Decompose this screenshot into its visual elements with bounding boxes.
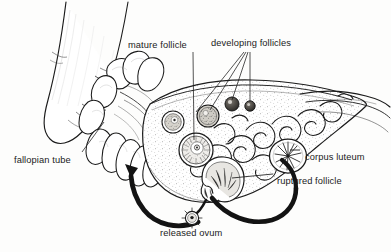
label-released-ovum: released ovum — [160, 228, 222, 238]
label-corpus-luteum: corpus luteum — [305, 152, 365, 162]
ovary — [140, 78, 370, 208]
label-mature-follicle: mature follicle — [128, 40, 187, 50]
illustration-canvas: mature follicle developing follicles fal… — [0, 0, 391, 252]
ovary-diagram-artwork — [0, 0, 391, 252]
label-developing-follicles: developing follicles — [211, 38, 291, 48]
label-ruptured-follicle: ruptured follicle — [277, 176, 342, 186]
developing-follicle-2 — [245, 101, 255, 111]
developing-follicle-3 — [197, 105, 219, 127]
ruptured-follicle-body — [201, 157, 244, 202]
intermediate-follicle — [162, 111, 184, 133]
ovum — [182, 208, 202, 228]
label-fallopian-tube: fallopian tube — [14, 155, 71, 165]
